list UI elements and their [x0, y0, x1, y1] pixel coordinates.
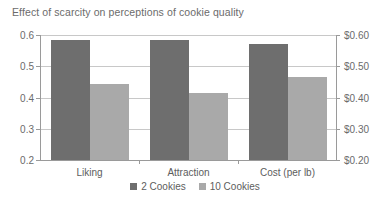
y-axis-left-label: 0.6: [8, 30, 34, 41]
y-axis-right-label: $0.60: [344, 30, 369, 41]
y-axis-left-label: 0.2: [8, 155, 34, 166]
legend-swatch-icon: [130, 183, 137, 190]
x-axis-tick: [139, 160, 140, 164]
y-axis-left-label: 0.4: [8, 92, 34, 103]
y-axis-left-label: 0.5: [8, 61, 34, 72]
y-axis-right-label: $0.50: [344, 61, 369, 72]
x-axis-category-label: Cost (per lb): [260, 167, 315, 178]
chart-legend: 2 Cookies10 Cookies: [0, 181, 390, 192]
bar-chart: Effect of scarcity on perceptions of coo…: [0, 0, 390, 202]
bar: [150, 40, 189, 160]
y-axis-left: [40, 35, 41, 160]
legend-label: 2 Cookies: [141, 181, 185, 192]
y-axis-left-label: 0.3: [8, 123, 34, 134]
legend-item[interactable]: 2 Cookies: [130, 181, 185, 192]
bar: [90, 84, 129, 160]
bar: [288, 77, 327, 160]
chart-title: Effect of scarcity on perceptions of coo…: [12, 6, 244, 18]
y-axis-right: [336, 35, 337, 160]
legend-item[interactable]: 10 Cookies: [199, 181, 260, 192]
x-axis-category-label: Attraction: [167, 167, 209, 178]
bar-group: [51, 35, 129, 160]
y-axis-right-label: $0.40: [344, 92, 369, 103]
legend-swatch-icon: [199, 183, 206, 190]
bar-group: [150, 35, 228, 160]
bar: [51, 40, 90, 160]
x-axis-tick: [238, 160, 239, 164]
plot-area: 0.2$0.200.3$0.300.4$0.400.5$0.500.6$0.60…: [40, 35, 337, 160]
x-axis-baseline: [40, 160, 337, 161]
y-axis-right-label: $0.20: [344, 155, 369, 166]
legend-label: 10 Cookies: [210, 181, 260, 192]
x-axis-category-label: Liking: [76, 167, 102, 178]
bar: [189, 93, 228, 160]
bar: [249, 44, 288, 160]
bar-group: [249, 35, 327, 160]
y-axis-right-label: $0.30: [344, 123, 369, 134]
